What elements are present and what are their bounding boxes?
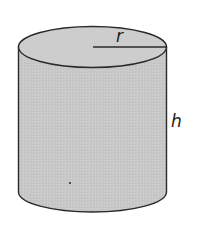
cylinder-diagram: r h [0,0,197,228]
height-label: h [171,111,182,131]
point-marker [69,182,71,184]
cylinder-body [19,47,167,212]
radius-label: r [116,26,124,46]
